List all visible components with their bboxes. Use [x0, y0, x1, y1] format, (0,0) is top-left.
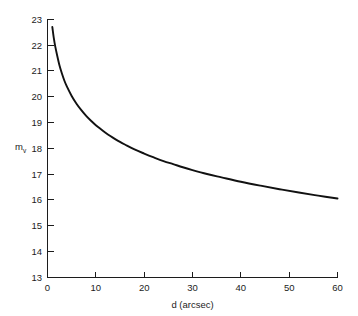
y-axis-ticks: [48, 19, 54, 277]
y-tick-label: 17: [31, 169, 42, 180]
y-axis-title-subscript: v: [23, 147, 27, 154]
x-tick-label: 10: [91, 282, 102, 293]
y-axis-title-main: m: [15, 141, 23, 152]
y-tick-label: 22: [31, 40, 42, 51]
x-axis-title: d (arcsec): [171, 299, 213, 310]
x-axis-ticks: [48, 272, 338, 278]
y-axis-title: m v: [15, 141, 27, 154]
y-tick-label: 14: [31, 246, 42, 257]
x-tick-label: 40: [236, 282, 247, 293]
x-tick-labels: 0 10 20 30 40 50 60: [45, 282, 343, 293]
y-tick-label: 13: [31, 272, 42, 283]
x-tick-label: 60: [332, 282, 343, 293]
x-tick-label: 20: [139, 282, 150, 293]
y-tick-label: 18: [31, 143, 42, 154]
x-tick-label: 50: [284, 282, 295, 293]
y-tick-labels: 23 22 21 20 19 18 17 16 15 14 13: [31, 14, 42, 283]
plot-area: 23 22 21 20 19 18 17 16 15 14 13 0 10 20…: [0, 0, 358, 316]
y-tick-label: 16: [31, 194, 42, 205]
y-tick-label: 23: [31, 14, 42, 25]
x-tick-label: 0: [45, 282, 50, 293]
x-tick-label: 30: [187, 282, 198, 293]
y-tick-label: 20: [31, 91, 42, 102]
y-tick-label: 19: [31, 117, 42, 128]
y-tick-label: 15: [31, 220, 42, 231]
chart-figure: 23 22 21 20 19 18 17 16 15 14 13 0 10 20…: [0, 0, 358, 316]
data-curve-line: [52, 27, 337, 198]
y-tick-label: 21: [31, 65, 42, 76]
